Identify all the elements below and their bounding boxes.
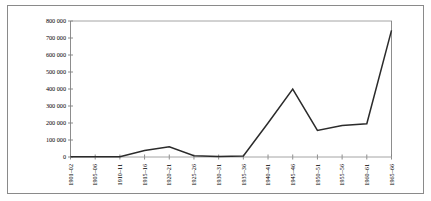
x-axis-tick-label: 1945–46 <box>289 164 296 186</box>
x-axis-tick-label: 1910–11 <box>116 164 123 185</box>
x-axis-tick-label: 1920–21 <box>165 164 172 186</box>
x-axis-tick-label: 1950–51 <box>314 164 321 186</box>
y-axis-tick-labels: 0100 000200 000300 000400 000500 000600 … <box>46 17 66 160</box>
x-axis-tick-label: 1930–31 <box>215 164 222 186</box>
x-axis-tick-label: 1935–36 <box>240 164 247 186</box>
y-axis-tick-label: 100 000 <box>46 136 66 143</box>
x-axis-tick-label: 1925–26 <box>190 164 197 186</box>
x-axis-tick-label: 1905–06 <box>91 164 98 186</box>
chart-figure: 0100 000200 000300 000400 000500 000600 … <box>0 0 431 201</box>
y-axis-tick-label: 700 000 <box>46 34 66 41</box>
y-axis-tick-label: 500 000 <box>46 68 66 75</box>
y-axis-tick-label: 800 000 <box>46 17 66 24</box>
x-axis-tick-label: 1915–16 <box>141 164 148 186</box>
y-axis-tick-label: 200 000 <box>46 119 66 126</box>
x-axis-tick-label: 1965–66 <box>388 164 395 186</box>
x-axis-tick-labels: 1901–021905–061910–111915–161920–211925–… <box>67 164 395 186</box>
chart-svg: 0100 000200 000300 000400 000500 000600 … <box>0 0 431 201</box>
data-series-line <box>71 30 392 156</box>
y-axis-tick-label: 400 000 <box>46 85 66 92</box>
x-axis-tick-label: 1940–41 <box>264 164 271 186</box>
x-axis-tick-label: 1955–56 <box>338 164 345 186</box>
y-axis-tick-label: 600 000 <box>46 51 66 58</box>
line-chart: 0100 000200 000300 000400 000500 000600 … <box>0 0 431 201</box>
y-axis-tick-label: 300 000 <box>46 102 66 109</box>
x-axis-tick-label: 1901–02 <box>67 164 74 186</box>
y-axis-tick-label: 0 <box>63 153 66 160</box>
x-axis-tick-label: 1960–61 <box>363 164 370 186</box>
